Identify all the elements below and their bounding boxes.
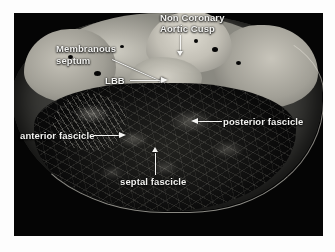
label-septal-fascicle: septal fascicle — [120, 176, 186, 188]
label-lbb: LBB — [105, 75, 125, 87]
vascular-pit — [212, 47, 218, 52]
up-arrow-icon-septal-fascicle — [152, 147, 158, 152]
label-membranous-septum-line2: septum — [56, 55, 90, 67]
label-membranous-septum-line1: Membranous — [56, 43, 116, 55]
leader-line-anterior-fascicle — [94, 135, 120, 136]
leader-line-posterior-fascicle — [198, 121, 222, 122]
leader-line-septal-fascicle — [155, 153, 156, 175]
label-non-coronary-aortic-cusp-line1: Non Coronary — [160, 13, 225, 24]
label-non-coronary-aortic-cusp-line2: Aortic Cusp — [160, 23, 215, 35]
vascular-pit — [120, 45, 124, 48]
vascular-pit — [194, 39, 198, 43]
left-arrow-icon-posterior-fascicle — [191, 118, 198, 124]
down-arrow-icon-non-coronary-aortic-cusp — [177, 51, 183, 56]
leader-line-lbb — [130, 80, 162, 81]
label-anterior-fascicle: anterior fascicle — [20, 130, 95, 142]
figure-page: Non Coronary Aortic Cusp Membranous sept… — [0, 0, 335, 252]
vascular-pit — [94, 71, 101, 76]
right-arrow-icon-lbb — [161, 77, 168, 83]
label-posterior-fascicle: posterior fascicle — [223, 116, 303, 128]
leader-line-non-coronary-aortic-cusp — [180, 35, 181, 51]
right-arrow-icon-anterior-fascicle — [119, 132, 126, 138]
photographic-plate: Non Coronary Aortic Cusp Membranous sept… — [14, 13, 323, 236]
vascular-pit — [236, 61, 241, 65]
